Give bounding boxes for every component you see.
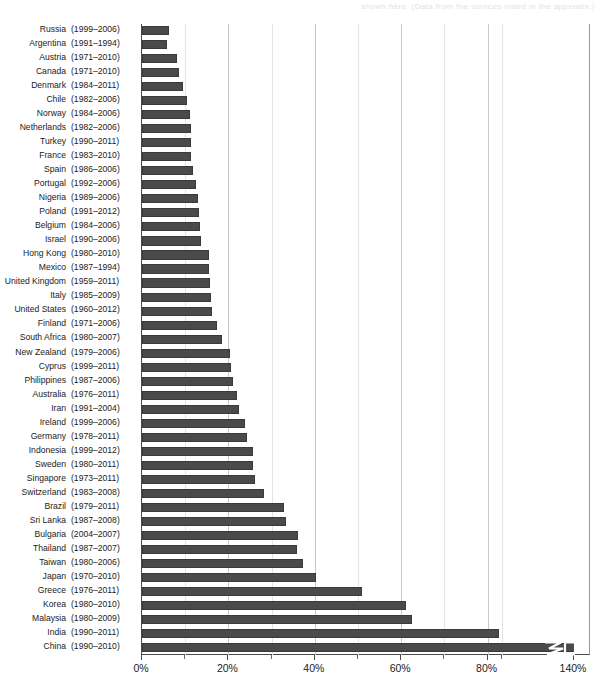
chart-row: New Zealand(1979–2006) (0, 347, 601, 361)
category-year-range: (1999–2006) (71, 417, 135, 428)
category-name: Argentina (29, 38, 66, 49)
chart-row: Taiwan(1980–2006) (0, 557, 601, 571)
chart-row: Norway(1984–2006) (0, 108, 601, 122)
bar (142, 405, 239, 414)
category-year-range: (1980–2009) (71, 613, 135, 624)
chart-row: Italy(1985–2009) (0, 290, 601, 304)
category-name: Chile (46, 94, 66, 105)
category-name: Iran (51, 403, 66, 414)
chart-row: Brazil(1979–2011) (0, 501, 601, 515)
category-year-range: (1980–2010) (71, 248, 135, 259)
category-year-range: (1960–2012) (71, 304, 135, 315)
category-year-range: (1971–2010) (71, 52, 135, 63)
category-name: Indonesia (29, 445, 66, 456)
category-name: Korea (43, 599, 66, 610)
category-label: Belgium(1984–2006) (0, 220, 135, 231)
category-year-range: (1989–2006) (71, 192, 135, 203)
category-label: Denmark(1984–2011) (0, 80, 135, 91)
category-name: South Africa (20, 332, 66, 343)
category-name: Philippines (24, 375, 66, 386)
chart-row: Greece(1976–2011) (0, 585, 601, 599)
category-name: Japan (43, 571, 66, 582)
chart-row: Switzerland(1983–2008) (0, 487, 601, 501)
bar-chart-figure: Russia(1999–2006)Argentina(1991–1994)Aus… (0, 0, 601, 694)
chart-row: Bulgaria(2004–2007) (0, 529, 601, 543)
chart-row: United States(1960–2012) (0, 304, 601, 318)
bar (142, 363, 231, 372)
chart-row: Japan(1970–2010) (0, 571, 601, 585)
chart-row: Canada(1971–2010) (0, 66, 601, 80)
category-year-range: (1983–2008) (71, 487, 135, 498)
x-tick (400, 655, 401, 660)
bar (142, 573, 316, 582)
category-label: Thailand(1987–2007) (0, 543, 135, 554)
axis-break-marker-icon (541, 641, 575, 657)
x-tick-label: 140% (560, 662, 587, 674)
x-tick-label: 40% (303, 662, 324, 674)
category-label: United Kingdom(1959–2011) (0, 276, 135, 287)
category-name: Netherlands (20, 122, 66, 133)
category-name: Malaysia (32, 613, 66, 624)
category-label: Korea(1980–2010) (0, 599, 135, 610)
bar (142, 54, 177, 63)
chart-row: South Africa(1980–2007) (0, 332, 601, 346)
category-name: Nigeria (39, 192, 66, 203)
category-label: Nigeria(1989–2006) (0, 192, 135, 203)
x-tick (141, 655, 142, 660)
category-year-range: (1971–2006) (71, 318, 135, 329)
chart-row: Belgium(1984–2006) (0, 220, 601, 234)
chart-row: Malaysia(1980–2009) (0, 613, 601, 627)
category-name: Austria (39, 52, 66, 63)
x-tick (227, 655, 228, 660)
bar (142, 643, 574, 652)
category-year-range: (1984–2006) (71, 220, 135, 231)
category-label: Finland(1971–2006) (0, 318, 135, 329)
category-name: Switzerland (22, 487, 66, 498)
bar (142, 489, 264, 498)
chart-row: Hong Kong(1980–2010) (0, 248, 601, 262)
category-year-range: (1979–2011) (71, 501, 135, 512)
category-name: Greece (38, 585, 66, 596)
category-year-range: (1987–1994) (71, 262, 135, 273)
category-name: New Zealand (15, 347, 66, 358)
bar (142, 208, 199, 217)
category-year-range: (1987–2008) (71, 515, 135, 526)
bar (142, 433, 247, 442)
chart-row: Thailand(1987–2007) (0, 543, 601, 557)
chart-row: Australia(1976–2011) (0, 389, 601, 403)
bar (142, 264, 209, 273)
bar (142, 447, 253, 456)
category-label: Australia(1976–2011) (0, 389, 135, 400)
category-label: Brazil(1979–2011) (0, 501, 135, 512)
category-year-range: (1979–2006) (71, 347, 135, 358)
category-year-range: (1976–2011) (71, 585, 135, 596)
category-label: Austria(1971–2010) (0, 52, 135, 63)
category-year-range: (1991–1994) (71, 38, 135, 49)
category-label: Spain(1986–2006) (0, 164, 135, 175)
category-label: France(1983–2010) (0, 150, 135, 161)
category-name: Israel (45, 234, 66, 245)
category-label: Greece(1976–2011) (0, 585, 135, 596)
chart-row: Russia(1999–2006) (0, 24, 601, 38)
category-year-range: (1982–2006) (71, 122, 135, 133)
category-name: Russia (40, 24, 66, 35)
chart-row: Finland(1971–2006) (0, 318, 601, 332)
chart-row: Chile(1982–2006) (0, 94, 601, 108)
category-name: Denmark (31, 80, 66, 91)
category-name: Belgium (35, 220, 66, 231)
category-label: New Zealand(1979–2006) (0, 347, 135, 358)
category-year-range: (1991–2004) (71, 403, 135, 414)
category-label: Israel(1990–2006) (0, 234, 135, 245)
bar (142, 461, 253, 470)
category-label: Japan(1970–2010) (0, 571, 135, 582)
x-tick-minor (184, 655, 185, 659)
bar (142, 278, 210, 287)
category-name: France (39, 150, 66, 161)
category-label: Bulgaria(2004–2007) (0, 529, 135, 540)
category-label: Portugal(1992–2006) (0, 178, 135, 189)
bar (142, 250, 209, 259)
category-label: Cyprus(1999–2011) (0, 361, 135, 372)
chart-row: Singapore(1973–2011) (0, 473, 601, 487)
bar (142, 475, 255, 484)
category-year-range: (1980–2011) (71, 459, 135, 470)
